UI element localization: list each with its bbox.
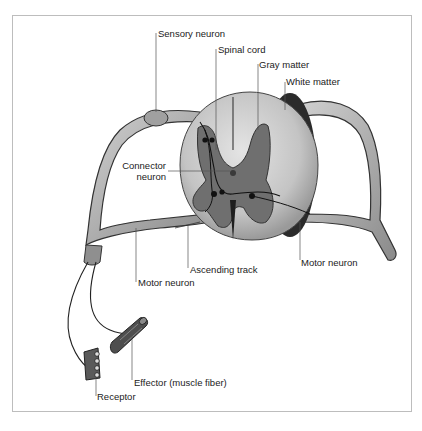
label-effector: Effector (muscle fiber) — [134, 377, 227, 388]
label-connector-neuron-line1: Connector — [118, 160, 166, 171]
label-connector-neuron-line2: neuron — [118, 171, 166, 182]
label-motor-neuron-right: Motor neuron — [301, 257, 358, 268]
label-ascending-track: Ascending track — [190, 264, 258, 275]
spinal-cord — [180, 92, 318, 240]
spinal-reflex-illustration — [0, 0, 422, 431]
label-connector-neuron: Connector neuron — [118, 160, 166, 182]
label-white-matter: White matter — [286, 76, 340, 87]
receptor-illustration — [84, 348, 100, 380]
label-receptor: Receptor — [97, 391, 136, 402]
label-sensory-neuron: Sensory neuron — [158, 28, 225, 39]
peripheral-fibers — [68, 262, 140, 368]
effector-illustration — [110, 316, 148, 353]
label-gray-matter: Gray matter — [259, 59, 309, 70]
label-spinal-cord: Spinal cord — [218, 44, 266, 55]
label-motor-neuron-left: Motor neuron — [138, 277, 195, 288]
